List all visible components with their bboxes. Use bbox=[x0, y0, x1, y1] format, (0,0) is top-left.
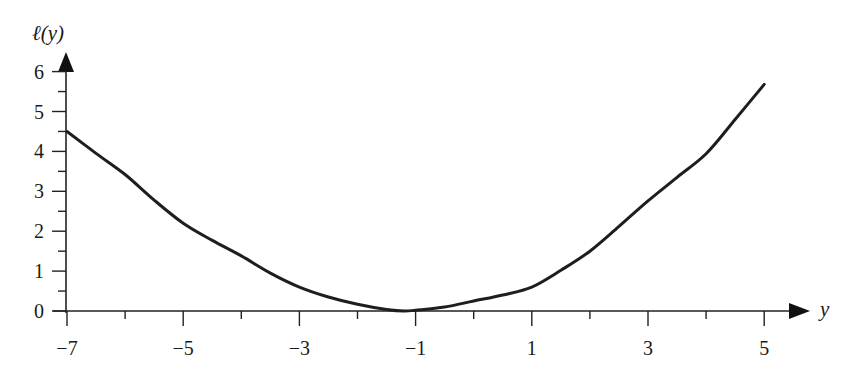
x-ticks bbox=[67, 311, 764, 326]
x-tick-label: −7 bbox=[56, 337, 77, 359]
y-ticks bbox=[52, 72, 66, 311]
x-tick-labels: −7−5−3−1135 bbox=[56, 337, 769, 359]
y-tick-labels: 0123456 bbox=[34, 61, 44, 322]
y-axis-arrow-icon bbox=[58, 52, 74, 72]
y-axis-title: ℓ(y) bbox=[32, 21, 64, 45]
y-tick-label: 4 bbox=[34, 140, 44, 162]
x-axis-arrow-icon bbox=[789, 303, 810, 319]
x-tick-label: 1 bbox=[527, 337, 537, 359]
x-tick-label: −5 bbox=[173, 337, 194, 359]
x-tick-label: −1 bbox=[405, 337, 426, 359]
x-axis-title: y bbox=[818, 297, 830, 321]
y-tick-label: 5 bbox=[34, 101, 44, 123]
x-tick-label: −3 bbox=[289, 337, 310, 359]
y-tick-label: 0 bbox=[34, 300, 44, 322]
y-axis: 0123456 ℓ(y) bbox=[32, 21, 74, 322]
y-tick-label: 6 bbox=[34, 61, 44, 83]
x-tick-label: 5 bbox=[759, 337, 769, 359]
y-tick-label: 3 bbox=[34, 180, 44, 202]
loss-curve bbox=[67, 84, 764, 311]
x-tick-label: 3 bbox=[643, 337, 653, 359]
y-tick-label: 1 bbox=[34, 260, 44, 282]
loss-function-chart: 0123456 ℓ(y) −7−5−3−1135 y bbox=[0, 0, 853, 391]
y-tick-label: 2 bbox=[34, 220, 44, 242]
